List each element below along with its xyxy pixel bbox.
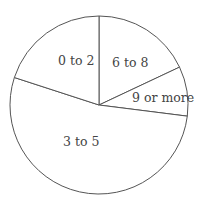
slice-label-9-or-more: 9 or more [132, 90, 194, 105]
slice-label-0-to-2: 0 to 2 [58, 53, 94, 68]
pie-chart-svg: 0 to 2 6 to 8 9 or more 3 to 5 [0, 0, 204, 203]
slice-label-6-to-8: 6 to 8 [112, 55, 148, 70]
pie-chart: 0 to 2 6 to 8 9 or more 3 to 5 [0, 0, 204, 203]
slice-label-3-to-5: 3 to 5 [63, 134, 99, 149]
pie-slices [10, 16, 188, 194]
